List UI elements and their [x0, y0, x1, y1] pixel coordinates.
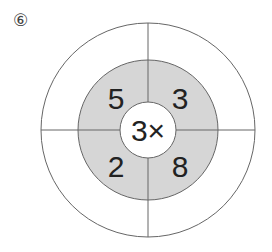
segment-bottom-left: 2 — [108, 150, 125, 183]
segment-top-right: 3 — [172, 82, 189, 115]
segment-bottom-right: 8 — [172, 150, 189, 183]
answer-slot-top-right[interactable] — [181, 45, 221, 75]
multiplication-wheel-diagram: 3× 5 3 2 8 — [0, 0, 272, 252]
segment-top-left: 5 — [108, 82, 125, 115]
answer-slot-bottom-left[interactable] — [75, 185, 115, 215]
answer-slot-top-left[interactable] — [75, 45, 115, 75]
answer-slot-bottom-right[interactable] — [181, 185, 221, 215]
center-operator: 3× — [131, 114, 165, 147]
